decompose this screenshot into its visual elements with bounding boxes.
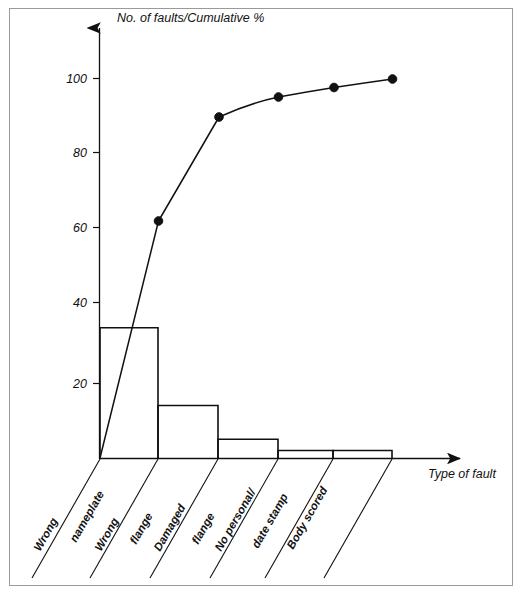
cum-point-3 [274,93,283,102]
cat-rule-5 [324,459,392,578]
pareto-chart-canvas: 100 80 60 40 20 No. of faults/Cumulative… [0,0,524,597]
category-labels: Wrong nameplate Wrong flange Damaged fla… [31,484,330,553]
cat-label-4-line-0: Body scored [284,484,330,551]
cum-point-4 [330,83,339,92]
bar-no-personal-date-stamp [278,451,333,459]
cumulative-percentage-line [100,79,393,458]
bar-damaged-flange [218,439,278,458]
bar-wrong-nameplate [100,328,158,458]
cat-label-2-line-0: Damaged [151,501,188,553]
y-axis-tick-labels: 100 80 60 40 20 [66,72,87,391]
cumulative-percentage-points [154,75,397,226]
cat-label-0-line-0: Wrong [31,516,59,553]
y-tick-label-20: 20 [72,377,87,391]
bar-series [100,328,392,458]
cat-label-1-line-0: Wrong [92,516,120,553]
cat-label-2-line-1: flange [189,510,217,546]
bar-wrong-flange [158,406,218,459]
y-tick-label-60: 60 [73,221,87,235]
y-tick-label-40: 40 [73,296,87,310]
pareto-chart-figure: 100 80 60 40 20 No. of faults/Cumulative… [0,0,524,597]
y-axis-title: No. of faults/Cumulative % [117,11,264,25]
y-tick-label-80: 80 [73,146,87,160]
cum-point-2 [215,113,224,122]
y-tick-label-100: 100 [66,72,87,86]
cum-point-1 [154,217,163,226]
cat-label-3-line-1: date stamp [249,491,290,550]
cat-label-1-line-1: flange [127,510,155,546]
bar-body-scored [333,451,392,459]
cum-point-5 [388,75,397,84]
x-axis-title: Type of fault [428,467,496,481]
